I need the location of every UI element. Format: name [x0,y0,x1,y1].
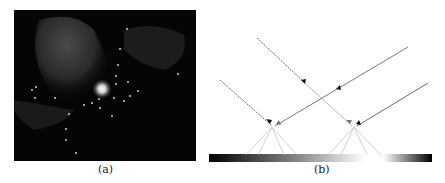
ray-diagram [0,0,445,183]
caption-b: (b) [314,163,330,176]
gradient-bar [209,154,432,162]
